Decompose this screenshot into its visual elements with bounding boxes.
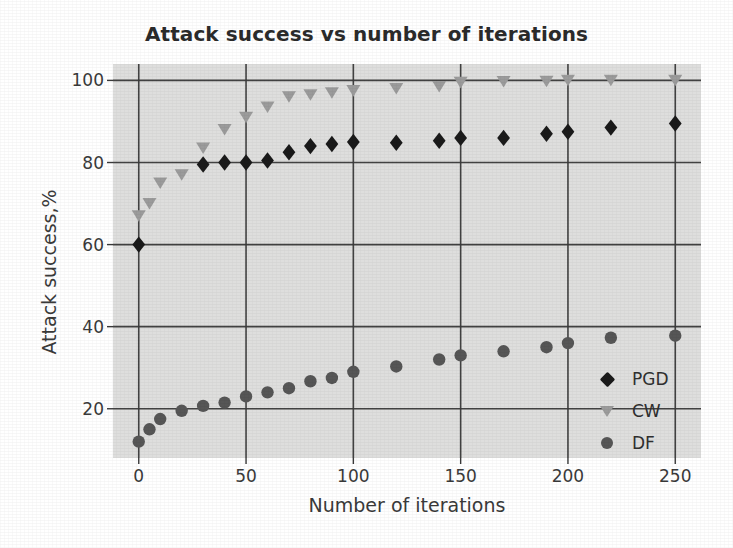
legend-item-df[interactable]: DF bbox=[592, 428, 688, 458]
legend-label: PGD bbox=[632, 369, 669, 389]
data-point-circle bbox=[605, 332, 617, 344]
data-point-circle bbox=[175, 405, 187, 417]
circle-icon-glyph bbox=[601, 437, 613, 449]
data-point-triangle bbox=[303, 89, 317, 101]
data-point-circle bbox=[218, 396, 230, 408]
data-point-circle bbox=[283, 382, 295, 394]
data-point-circle bbox=[347, 366, 359, 378]
data-point-triangle bbox=[153, 177, 167, 189]
data-point-triangle bbox=[142, 198, 156, 210]
data-point-diamond bbox=[197, 156, 210, 172]
data-point-circle bbox=[562, 337, 574, 349]
series-pgd bbox=[132, 115, 681, 252]
data-point-diamond bbox=[454, 130, 467, 146]
diamond-icon-glyph bbox=[599, 371, 615, 387]
data-point-triangle bbox=[132, 210, 146, 222]
data-point-diamond bbox=[347, 134, 360, 150]
data-point-circle bbox=[154, 413, 166, 425]
y-tick-label: 40 bbox=[60, 317, 104, 337]
data-point-diamond bbox=[132, 236, 145, 252]
data-point-circle bbox=[197, 400, 209, 412]
data-point-circle bbox=[304, 375, 316, 387]
triangle-down-icon bbox=[592, 400, 622, 422]
circle-icon bbox=[592, 432, 622, 454]
legend-label: DF bbox=[632, 433, 655, 453]
y-tick-label: 100 bbox=[60, 70, 104, 90]
x-tick-label: 50 bbox=[216, 466, 276, 486]
y-tick-label: 80 bbox=[60, 153, 104, 173]
data-point-triangle bbox=[239, 112, 253, 124]
data-point-diamond bbox=[390, 135, 403, 151]
data-point-triangle bbox=[261, 101, 275, 113]
data-point-diamond bbox=[433, 133, 446, 149]
data-point-diamond bbox=[562, 124, 575, 140]
data-point-circle bbox=[326, 372, 338, 384]
chart-title: Attack success vs number of iterations bbox=[0, 22, 733, 46]
x-axis-title: Number of iterations bbox=[113, 494, 701, 516]
series-cw bbox=[132, 75, 682, 222]
data-point-diamond bbox=[283, 144, 296, 160]
data-point-circle bbox=[261, 386, 273, 398]
data-point-diamond bbox=[540, 126, 553, 142]
data-point-triangle bbox=[454, 77, 468, 89]
data-point-triangle bbox=[346, 85, 360, 97]
data-point-triangle bbox=[196, 143, 210, 155]
legend-item-pgd[interactable]: PGD bbox=[592, 364, 688, 394]
data-point-triangle bbox=[432, 81, 446, 93]
data-point-diamond bbox=[604, 119, 617, 135]
data-point-circle bbox=[669, 329, 681, 341]
data-point-circle bbox=[497, 345, 509, 357]
x-tick-label: 100 bbox=[323, 466, 383, 486]
data-point-circle bbox=[390, 360, 402, 372]
x-tick-label: 0 bbox=[109, 466, 169, 486]
chart-legend: PGDCWDF bbox=[592, 360, 688, 458]
data-point-diamond bbox=[325, 136, 338, 152]
data-point-triangle bbox=[218, 124, 232, 136]
triangle-down-icon-glyph bbox=[600, 406, 614, 417]
data-point-triangle bbox=[175, 169, 189, 181]
data-point-diamond bbox=[261, 152, 274, 168]
data-point-triangle bbox=[539, 76, 553, 88]
data-point-diamond bbox=[304, 138, 317, 154]
diamond-icon bbox=[592, 368, 622, 390]
data-point-triangle bbox=[497, 76, 511, 88]
data-point-circle bbox=[143, 423, 155, 435]
x-axis-tick-labels: 050100150200250 bbox=[113, 466, 701, 490]
chart-figure: Attack success vs number of iterations 2… bbox=[0, 0, 733, 548]
y-axis-title: Attack success,% bbox=[38, 107, 60, 437]
data-point-circle bbox=[433, 353, 445, 365]
y-tick-label: 20 bbox=[60, 399, 104, 419]
legend-label: CW bbox=[632, 401, 661, 421]
data-point-triangle bbox=[389, 83, 403, 95]
data-point-circle bbox=[454, 349, 466, 361]
data-point-diamond bbox=[218, 154, 231, 170]
data-point-triangle bbox=[282, 91, 296, 103]
x-tick-label: 250 bbox=[645, 466, 705, 486]
data-point-diamond bbox=[669, 115, 682, 131]
y-tick-label: 60 bbox=[60, 235, 104, 255]
data-point-circle bbox=[240, 390, 252, 402]
data-point-diamond bbox=[240, 154, 253, 170]
data-point-circle bbox=[133, 435, 145, 447]
data-point-diamond bbox=[497, 130, 510, 146]
x-tick-label: 150 bbox=[431, 466, 491, 486]
data-point-triangle bbox=[325, 87, 339, 99]
x-tick-label: 200 bbox=[538, 466, 598, 486]
data-point-circle bbox=[540, 341, 552, 353]
legend-item-cw[interactable]: CW bbox=[592, 396, 688, 426]
